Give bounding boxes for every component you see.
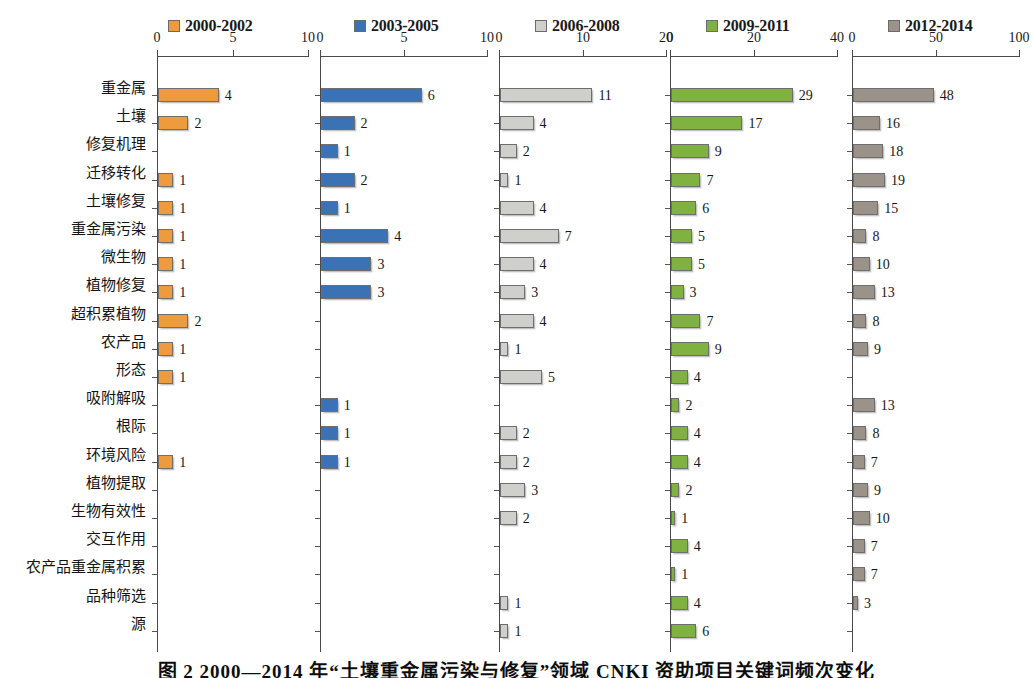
category-label: 根际 [116,419,146,434]
bar [853,88,934,102]
y-tick-mark [847,462,852,463]
bar-value-label: 1 [514,597,521,611]
x-tick-mark [852,50,853,56]
bar-value-label: 1 [344,399,351,413]
bar [671,116,742,130]
y-tick-mark [665,603,670,604]
y-tick-mark [665,405,670,406]
bar [671,370,688,384]
bar-value-label: 13 [881,286,895,300]
y-tick-mark [494,349,499,350]
bar-value-label: 11 [598,89,611,103]
bar [500,144,517,158]
category-label: 植物提取 [86,476,146,491]
y-tick-mark [494,574,499,575]
bar-value-label: 2 [194,315,201,329]
y-tick-mark [847,518,852,519]
category-label: 源 [131,617,146,632]
bar-value-label: 1 [179,202,186,216]
bar-value-label: 2 [361,174,368,188]
y-tick-mark [847,321,852,322]
category-label: 修复机理 [86,137,146,152]
bar-value-label: 13 [881,399,895,413]
y-tick-mark [152,208,157,209]
x-tick-mark [583,50,584,56]
bar [853,483,868,497]
panel-top-axis [499,56,667,57]
y-tick-mark [847,433,852,434]
y-tick-mark [847,490,852,491]
bar-value-label: 2 [361,117,368,131]
bar [158,314,188,328]
bar [671,567,675,581]
y-tick-mark [847,292,852,293]
bar-value-label: 2 [194,117,201,131]
y-tick-mark [494,321,499,322]
panel-2012-2014: 050100481618191581013891387910773 [852,42,1020,642]
bar [500,342,508,356]
bar-value-label: 1 [344,202,351,216]
y-tick-mark [665,433,670,434]
y-tick-mark [152,151,157,152]
bar [500,201,534,215]
bar [321,88,422,102]
panel-2006-2008: 01020114214743415223211 [499,42,667,642]
category-label: 植物修复 [86,278,146,293]
y-tick-mark [847,264,852,265]
y-tick-mark [315,321,320,322]
bar [500,370,542,384]
x-tick-mark [233,50,234,56]
bar [158,342,173,356]
y-tick-mark [315,151,320,152]
bar-value-label: 1 [179,258,186,272]
y-tick-mark [494,208,499,209]
x-tick-label: 40 [830,30,844,46]
y-tick-mark [315,377,320,378]
y-tick-mark [315,236,320,237]
bar-value-label: 3 [690,286,697,300]
bar [671,511,675,525]
bar-value-label: 9 [874,484,881,498]
bar [500,314,534,328]
x-tick-label: 0 [496,30,503,46]
bar-value-label: 4 [394,230,401,244]
bar-value-label: 6 [702,202,709,216]
bar [853,398,875,412]
bar-value-label: 2 [685,484,692,498]
bar [500,624,508,638]
bar [671,455,688,469]
bar [853,342,868,356]
bar-value-label: 48 [940,89,954,103]
bar [500,88,592,102]
y-tick-mark [152,321,157,322]
y-tick-mark [847,208,852,209]
bar-value-label: 5 [548,371,555,385]
y-tick-mark [152,292,157,293]
bar [853,596,858,610]
bar [671,483,679,497]
category-label: 品种筛选 [86,589,146,604]
bar-value-label: 16 [886,117,900,131]
bar-value-label: 8 [872,230,879,244]
y-tick-mark [494,546,499,547]
bar-value-label: 8 [872,315,879,329]
bar-value-label: 1 [344,145,351,159]
bar [671,88,793,102]
bar [671,596,688,610]
y-tick-mark [665,462,670,463]
bar-value-label: 1 [179,343,186,357]
bar [321,257,371,271]
x-tick-label: 0 [154,30,161,46]
bar-value-label: 4 [540,315,547,329]
y-tick-mark [665,236,670,237]
category-label: 环境风险 [86,448,146,463]
y-tick-mark [315,433,320,434]
y-tick-mark [665,377,670,378]
y-tick-mark [152,264,157,265]
x-tick-mark [1019,50,1020,56]
x-tick-mark [666,50,667,56]
bar [321,229,388,243]
bar-value-label: 4 [540,117,547,131]
y-tick-mark [152,236,157,237]
bar [853,314,866,328]
